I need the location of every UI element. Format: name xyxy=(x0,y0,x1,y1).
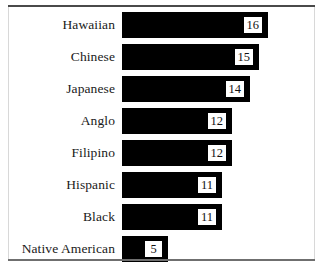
bar-category-label: Hispanic xyxy=(0,172,115,198)
bar-row: Filipino12 xyxy=(0,140,323,166)
bar-value-label: 12 xyxy=(207,112,228,130)
bar-value-label: 11 xyxy=(197,176,217,194)
bar-row: Hawaiian16 xyxy=(0,12,323,38)
plot-area: Hawaiian16Chinese15Japanese14Anglo12Fili… xyxy=(0,7,323,252)
bar-chart-figure: Hawaiian16Chinese15Japanese14Anglo12Fili… xyxy=(0,0,323,273)
bar-track: 15 xyxy=(122,44,259,70)
bar-category-label: Chinese xyxy=(0,44,115,70)
bar-value-label: 5 xyxy=(144,240,163,258)
bar-track: 12 xyxy=(122,108,232,134)
bar-row: Chinese15 xyxy=(0,44,323,70)
bar-track: 11 xyxy=(122,172,222,198)
bar-row: Japanese14 xyxy=(0,76,323,102)
bar-row: Black11 xyxy=(0,204,323,230)
bar-value-label: 11 xyxy=(197,208,217,226)
bar-value-label: 12 xyxy=(207,144,228,162)
bar-value-label: 16 xyxy=(243,16,264,34)
bar-value-label: 15 xyxy=(234,48,255,66)
bar-row: Hispanic11 xyxy=(0,172,323,198)
bar-track: 12 xyxy=(122,140,232,166)
bar-track: 16 xyxy=(122,12,268,38)
bar-category-label: Filipino xyxy=(0,140,115,166)
bar-row: Anglo12 xyxy=(0,108,323,134)
bar-category-label: Black xyxy=(0,204,115,230)
bar-category-label: Japanese xyxy=(0,76,115,102)
bar-track: 11 xyxy=(122,204,222,230)
bar-category-label: Anglo xyxy=(0,108,115,134)
bar-value-label: 14 xyxy=(225,80,246,98)
bar-track: 14 xyxy=(122,76,250,102)
bar-category-label: Hawaiian xyxy=(0,12,115,38)
bottom-rule xyxy=(8,259,315,261)
